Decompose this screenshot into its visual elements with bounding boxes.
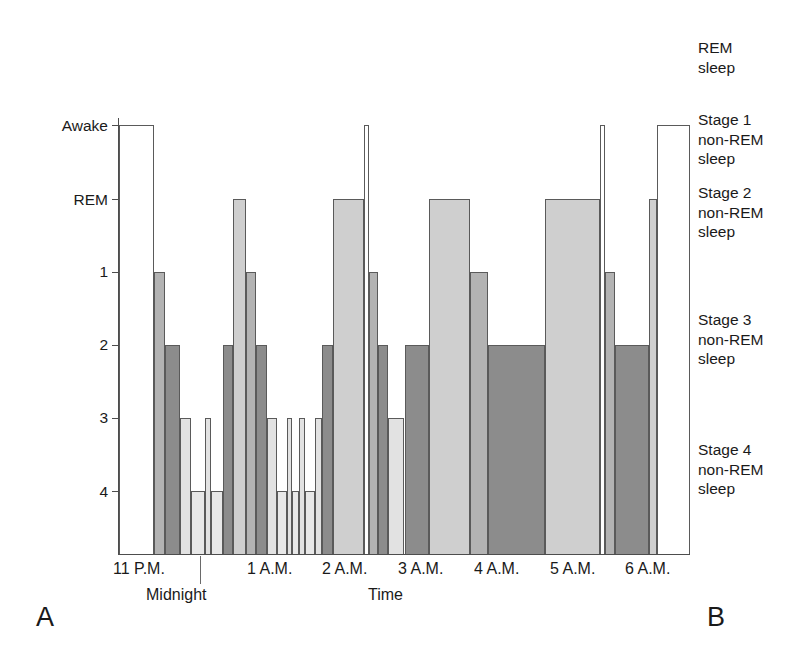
legend-entry-stage-2: Stage 2 non-REM sleep: [698, 183, 763, 242]
sleep-stage-bar: [333, 199, 364, 554]
midnight-tick-mark: [200, 556, 201, 584]
sleep-stage-bar: [369, 272, 379, 554]
sleep-stage-bar: [378, 345, 388, 554]
sleep-stage-bar: [615, 345, 649, 554]
sleep-stage-bar: [315, 418, 322, 554]
sleep-stage-bar: [488, 345, 545, 554]
hypnogram-bars: [119, 118, 690, 554]
sleep-stage-bar: [388, 418, 404, 554]
legend-line-2: non-REM: [698, 330, 763, 350]
legend-line-2: sleep: [698, 58, 735, 78]
legend-entry-rem: REM sleep: [698, 38, 735, 77]
sleep-stage-bar: [233, 199, 246, 554]
x-tick-label-11pm: 11 P.M.: [113, 561, 165, 577]
legend-line-3: sleep: [698, 149, 763, 169]
panel-a-hypnogram: Awake REM 1 2 3 4 11 P.M. 1 A.M. 2 A.M. …: [0, 0, 690, 653]
y-tick-mark-4: [112, 491, 118, 492]
panel-b-letter: B: [707, 602, 725, 633]
sleep-stage-bar: [246, 272, 256, 554]
sleep-stage-bar: [119, 125, 154, 554]
legend-line-1: Stage 1: [698, 110, 763, 130]
sleep-stage-bar: [305, 491, 315, 554]
x-tick-label-2am: 2 A.M.: [322, 561, 367, 577]
y-tick-mark-awake: [112, 125, 118, 126]
sleep-stage-bar: [154, 272, 165, 554]
x-tick-label-4am: 4 A.M.: [474, 561, 519, 577]
y-tick-label-1: 1: [0, 264, 108, 280]
y-tick-label-4: 4: [0, 484, 108, 500]
legend-line-2: non-REM: [698, 130, 763, 150]
sleep-stage-bar: [211, 491, 223, 554]
sleep-stage-bar: [165, 345, 180, 554]
sleep-stage-bar: [191, 491, 206, 554]
y-tick-mark-3: [112, 418, 118, 419]
sleep-stage-bar: [429, 199, 470, 554]
legend-entry-stage-3: Stage 3 non-REM sleep: [698, 310, 763, 369]
legend-line-2: non-REM: [698, 460, 763, 480]
y-tick-mark-rem: [112, 199, 118, 200]
midnight-label: Midnight: [146, 586, 206, 604]
figure-root: Awake REM 1 2 3 4 11 P.M. 1 A.M. 2 A.M. …: [0, 0, 793, 653]
y-tick-label-rem: REM: [0, 192, 108, 208]
legend-line-3: sleep: [698, 349, 763, 369]
sleep-stage-bar: [180, 418, 191, 554]
panel-b-legend: REM sleep Stage 1 non-REM sleep Stage 2 …: [690, 0, 793, 653]
sleep-stage-bar: [470, 272, 488, 554]
sleep-stage-bar: [292, 491, 299, 554]
x-tick-label-1am: 1 A.M.: [247, 561, 292, 577]
x-tick-label-6am: 6 A.M.: [625, 561, 670, 577]
y-tick-label-2: 2: [0, 337, 108, 353]
legend-line-1: Stage 4: [698, 440, 763, 460]
y-tick-mark-2: [112, 345, 118, 346]
y-tick-label-awake: Awake: [0, 118, 108, 134]
legend-line-1: Stage 2: [698, 183, 763, 203]
legend-entry-stage-4: Stage 4 non-REM sleep: [698, 440, 763, 499]
legend-line-3: sleep: [698, 479, 763, 499]
sleep-stage-bar: [256, 345, 267, 554]
x-axis-line: [118, 554, 690, 555]
sleep-stage-bar: [267, 418, 278, 554]
y-tick-mark-1: [112, 272, 118, 273]
sleep-stage-bar: [657, 125, 690, 554]
x-axis-title: Time: [368, 586, 403, 604]
legend-line-2: non-REM: [698, 203, 763, 223]
sleep-stage-bar: [649, 199, 657, 554]
x-tick-label-3am: 3 A.M.: [398, 561, 443, 577]
sleep-stage-bar: [322, 345, 333, 554]
sleep-stage-bar: [605, 272, 615, 554]
sleep-stage-bar: [545, 199, 600, 554]
legend-line-1: Stage 3: [698, 310, 763, 330]
sleep-stage-bar: [223, 345, 233, 554]
x-tick-label-5am: 5 A.M.: [550, 561, 595, 577]
legend-line-3: sleep: [698, 222, 763, 242]
panel-a-letter: A: [36, 602, 54, 633]
y-tick-label-3: 3: [0, 410, 108, 426]
legend-entry-stage-1: Stage 1 non-REM sleep: [698, 110, 763, 169]
sleep-stage-bar: [405, 345, 429, 554]
plot-area: [118, 118, 690, 555]
sleep-stage-bar: [277, 491, 287, 554]
legend-line-1: REM: [698, 38, 735, 58]
